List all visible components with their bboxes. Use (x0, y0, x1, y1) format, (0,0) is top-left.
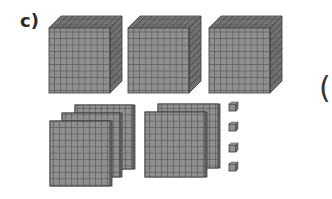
hundred-flat-front (50, 121, 112, 186)
unit-cube-4 (229, 162, 238, 171)
hundred-flats-group-1 (50, 105, 135, 186)
thousand-cube-3 (209, 16, 282, 93)
base-ten-blocks-diagram (0, 0, 332, 199)
unit-cube-1 (229, 102, 238, 111)
thousand-cube-2 (128, 16, 201, 93)
thousand-cube-1 (49, 16, 122, 93)
unit-cube-2 (229, 122, 238, 131)
hundred-flats-group-2 (145, 104, 220, 177)
hundred-flat-front (145, 112, 207, 177)
unit-cube-3 (229, 143, 238, 152)
unit-cubes (229, 102, 238, 171)
